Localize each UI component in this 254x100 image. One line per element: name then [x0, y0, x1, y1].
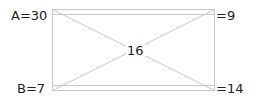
corner-label-top-left: A=30 [11, 9, 47, 22]
center-label: 16 [126, 44, 145, 57]
corner-label-bottom-left: B=7 [17, 82, 45, 95]
corner-label-top-right: =9 [216, 9, 235, 22]
corner-label-bottom-right: =14 [216, 82, 243, 95]
